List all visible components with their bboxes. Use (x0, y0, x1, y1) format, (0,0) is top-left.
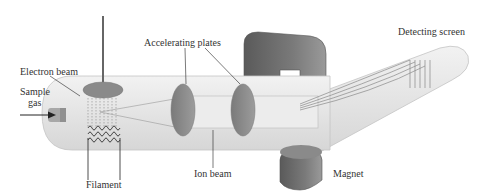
label-electron-beam: Electron beam (20, 66, 78, 77)
accelerating-plate-2 (231, 84, 255, 136)
accelerating-plate-1 (171, 84, 195, 136)
label-filament: Filament (86, 179, 122, 190)
label-detecting-screen: Detecting screen (398, 26, 465, 37)
label-magnet: Magnet (333, 168, 364, 179)
magnet-lower (280, 145, 322, 190)
label-accelerating-plates: Accelerating plates (144, 37, 221, 48)
label-sample-gas-1: Sample (20, 86, 50, 97)
electron-collector (83, 16, 123, 98)
label-sample-gas-2: gas (28, 97, 41, 108)
label-ion-beam: Ion beam (194, 168, 232, 179)
